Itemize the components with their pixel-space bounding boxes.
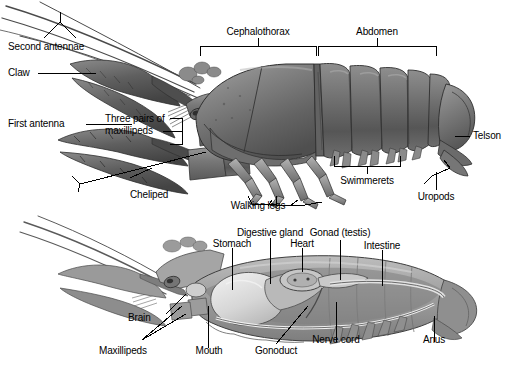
anatomy-illustration (0, 0, 505, 372)
label-abdomen: Abdomen (347, 26, 407, 38)
heart-organ (280, 269, 324, 291)
label-gonad-testis: Gonad (testis) (303, 227, 377, 239)
label-cephalothorax: Cephalothorax (218, 26, 298, 38)
label-gonoduct: Gonoduct (244, 345, 308, 357)
tail-fan-upper (438, 84, 475, 176)
lobster-anatomy-figure: Second antennae Claw First antenna Three… (0, 0, 505, 372)
label-heart: Heart (281, 238, 323, 250)
label-first-antenna: First antenna (8, 118, 64, 130)
label-uropods: Uropods (408, 191, 464, 203)
label-maxillipeds-line2: maxillipeds (105, 125, 153, 136)
label-three-pairs-of-maxillipeds: Three pairs of maxillipeds (105, 113, 177, 136)
label-nerve-cord: Nerve cord (302, 334, 370, 346)
label-mouth: Mouth (189, 345, 229, 357)
bracket-abdomen (318, 38, 436, 56)
label-cheliped: Cheliped (130, 189, 168, 201)
label-intestine: Intestine (355, 240, 409, 252)
label-walking-legs: Walking legs (222, 200, 294, 212)
label-swimmerets: Swimmerets (331, 175, 403, 187)
brain-organ (186, 283, 206, 297)
abdomen-upper (314, 63, 450, 158)
label-second-antennae: Second antennae (8, 41, 84, 53)
label-brain: Brain (128, 312, 151, 324)
label-telson: Telson (473, 130, 501, 142)
cephalothorax-body-upper (196, 64, 316, 166)
label-maxillipeds-line1: Three pairs of (105, 113, 165, 124)
bracket-cephalothorax (200, 38, 316, 56)
label-digestive-gland: Digestive gland (225, 227, 315, 239)
label-maxillipeds: Maxillipeds (99, 345, 147, 357)
label-claw: Claw (8, 67, 30, 79)
label-anus: Anus (416, 334, 452, 346)
label-stomach: Stomach (203, 238, 261, 250)
